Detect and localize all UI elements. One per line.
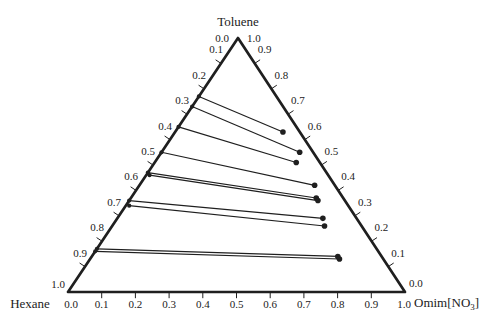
left-edge-tick-label-9: 0.9 — [73, 247, 87, 259]
right-edge-tick-label-4: 0.6 — [308, 120, 322, 132]
right-edge-tick-label-0: 1.0 — [247, 32, 261, 44]
vertex-label-omim-no3: Omim[NO3] — [414, 295, 479, 312]
right-edge-tick-label-8: 0.2 — [375, 221, 389, 233]
vertex-label-toluene: Toluene — [217, 14, 259, 29]
bottom-edge-tick-label-4: 0.4 — [196, 298, 210, 310]
omim-label-post: ] — [475, 295, 479, 310]
tie-line-3-left-point — [176, 125, 180, 129]
left-edge-tick-label-1: 0.1 — [209, 43, 223, 55]
bottom-edge-tick-label-8: 0.8 — [331, 298, 345, 310]
tie-line-7-left-point — [127, 198, 131, 202]
tie-line-6-left-point — [147, 173, 151, 177]
right-edge-tick-label-7: 0.3 — [358, 196, 372, 208]
right-edge-tick-7 — [355, 212, 360, 216]
left-edge-tick-label-2: 0.2 — [192, 69, 206, 81]
right-edge-tick-3 — [288, 111, 293, 115]
tie-line-4-right-point — [312, 183, 318, 189]
bottom-edge-tick-label-7: 0.7 — [297, 298, 311, 310]
left-edge-tick-7 — [114, 212, 119, 216]
right-edge-tick-2 — [271, 85, 276, 89]
bottom-edge-tick-label-0: 0.0 — [64, 298, 78, 310]
left-edge-tick-label-10: 1.0 — [51, 278, 65, 290]
tie-line-1 — [199, 96, 283, 132]
bottom-edge-tick-label-3: 0.3 — [162, 298, 176, 310]
right-edge-tick-label-5: 0.5 — [325, 145, 339, 157]
right-edge-tick-4 — [305, 136, 310, 140]
right-edge-tick-label-9: 0.1 — [391, 247, 405, 259]
vertex-label-hexane: Hexane — [10, 296, 50, 311]
bottom-edge-tick-label-5: 0.5 — [230, 298, 244, 310]
tie-line-2-left-point — [190, 104, 194, 108]
tie-line-6-right-point — [315, 198, 321, 204]
right-edge-tick-label-10: 0.0 — [409, 277, 423, 289]
left-edge-tick-8 — [97, 238, 102, 242]
bottom-edge-tick-label-10: 1.0 — [397, 298, 411, 310]
left-edge-tick-2 — [199, 85, 204, 89]
right-edge-tick-1 — [255, 60, 260, 64]
right-edge-tick-label-6: 0.4 — [341, 170, 355, 182]
left-edge-tick-9 — [80, 263, 85, 267]
right-edge-tick-label-2: 0.8 — [274, 69, 288, 81]
tie-line-4-left-point — [159, 150, 163, 154]
right-edge-tick-9 — [388, 263, 393, 267]
bottom-edge-tick-label-6: 0.6 — [263, 298, 277, 310]
tie-line-3 — [179, 127, 297, 163]
left-edge-tick-1 — [216, 60, 221, 64]
tie-line-5 — [148, 173, 316, 198]
left-edge-tick-label-0: 0.0 — [215, 32, 229, 44]
tie-line-3-right-point — [293, 160, 299, 166]
right-edge-tick-label-1: 0.9 — [258, 43, 272, 55]
left-edge-tick-label-8: 0.8 — [90, 221, 104, 233]
ternary-diagram: 0.01.00.00.10.90.10.20.80.20.30.70.30.40… — [0, 0, 485, 328]
tie-line-1-left-point — [197, 94, 201, 98]
tie-line-6 — [150, 175, 318, 200]
left-edge-tick-5 — [148, 161, 153, 165]
omim-label-pre: Omim[NO — [414, 295, 470, 310]
tie-line-2-right-point — [297, 150, 303, 156]
tie-line-10-left-point — [93, 249, 97, 253]
figure: 0.01.00.00.10.90.10.20.80.20.30.70.30.40… — [0, 0, 485, 328]
left-edge-tick-label-7: 0.7 — [107, 196, 121, 208]
left-edge-tick-label-5: 0.5 — [141, 145, 155, 157]
bottom-edge-tick-label-9: 0.9 — [364, 298, 378, 310]
left-edge-tick-label-3: 0.3 — [175, 94, 189, 106]
tie-line-1-right-point — [280, 129, 286, 135]
right-edge-tick-6 — [338, 187, 343, 191]
bottom-edge-tick-label-1: 0.1 — [95, 298, 109, 310]
bottom-edge-tick-label-2: 0.2 — [129, 298, 143, 310]
right-edge-tick-5 — [322, 161, 327, 165]
left-edge-tick-3 — [182, 111, 187, 115]
tie-line-8-left-point — [127, 204, 131, 208]
tie-line-10-right-point — [337, 256, 343, 262]
left-edge-tick-4 — [165, 136, 170, 140]
left-edge-tick-6 — [131, 187, 136, 191]
left-edge-tick-label-6: 0.6 — [124, 170, 138, 182]
triangle-outline — [68, 38, 405, 292]
right-edge-tick-8 — [372, 238, 377, 242]
tie-line-7-right-point — [320, 216, 326, 222]
tie-line-8-right-point — [322, 223, 328, 229]
left-edge-tick-label-4: 0.4 — [158, 120, 172, 132]
right-edge-tick-label-3: 0.7 — [291, 94, 305, 106]
